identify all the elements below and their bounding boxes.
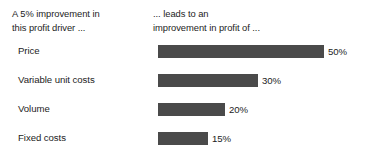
chart-row: Variable unit costs 30% [0,72,369,101]
bar [158,103,225,116]
chart-rows: Price 50% Variable unit costs 30% Volume… [0,43,369,159]
bar [158,45,324,58]
bar-value-label: 30% [262,74,281,87]
bar [158,74,258,87]
bar-group: 15% [158,132,231,145]
driver-header-line-2: this profit driver ... [12,21,100,35]
driver-column-header: A 5% improvement in this profit driver .… [12,7,100,34]
profit-driver-sensitivity-chart: A 5% improvement in this profit driver .… [0,0,369,160]
bar-value-label: 50% [328,45,347,58]
row-label: Variable unit costs [18,73,95,86]
bar-value-label: 15% [212,132,231,145]
row-label: Price [18,44,40,57]
bar [158,132,208,145]
driver-header-line-1: A 5% improvement in [12,7,100,21]
chart-row: Fixed costs 15% [0,130,369,159]
chart-row: Price 50% [0,43,369,72]
profit-header-line-1: ... leads to an [153,7,260,21]
profit-header-line-2: improvement in profit of ... [153,21,260,35]
bar-group: 50% [158,45,347,58]
row-label: Volume [18,102,50,115]
bar-value-label: 20% [229,103,248,116]
bar-group: 30% [158,74,281,87]
bar-group: 20% [158,103,248,116]
row-label: Fixed costs [18,131,66,144]
profit-column-header: ... leads to an improvement in profit of… [153,7,260,34]
chart-row: Volume 20% [0,101,369,130]
